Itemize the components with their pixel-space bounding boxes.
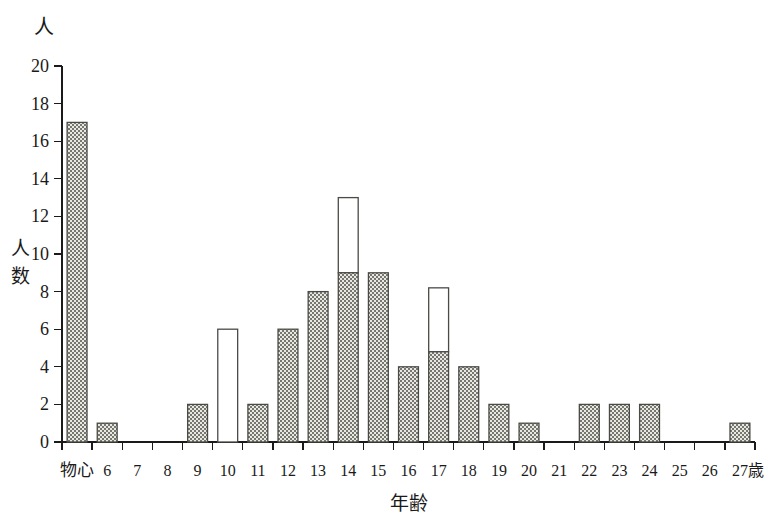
bar-segment-filled [459, 367, 479, 442]
y-tick-label: 4 [40, 357, 49, 377]
x-tick-label: 8 [163, 462, 171, 479]
y-unit-label: 人 [34, 16, 54, 38]
y-tick-label: 6 [40, 319, 49, 339]
x-tick-label: 18 [461, 462, 477, 479]
y-tick-label: 18 [31, 94, 49, 114]
y-tick-label: 8 [40, 282, 49, 302]
bar-segment-open [338, 198, 358, 273]
x-tick-label: 19 [491, 462, 507, 479]
x-tick-label: 23 [611, 462, 627, 479]
y-tick-label: 12 [31, 206, 49, 226]
x-tick-label: 25 [672, 462, 688, 479]
bars-container [67, 122, 750, 442]
y-unit-label-text: 人 [34, 16, 54, 38]
x-axis-title-text: 年齢 [390, 493, 428, 514]
x-tick-label: 21 [551, 462, 567, 479]
bar-segment-filled [97, 423, 117, 442]
bar-segment-open [218, 329, 238, 442]
histogram-chart: 人 02468101214161820 物心678910111213141516… [0, 0, 764, 519]
bar-segment-filled [368, 273, 388, 442]
bar-segment-filled [429, 352, 449, 442]
x-tick-label: 15 [370, 462, 386, 479]
x-tick-label: 7 [133, 462, 141, 479]
x-axis-title: 年齢 [390, 493, 428, 514]
y-tick-label: 0 [40, 432, 49, 452]
bar-segment-open [429, 288, 449, 352]
bar-segment-filled [609, 404, 629, 442]
x-tick-label: 16 [401, 462, 417, 479]
x-tick-label: 12 [280, 462, 296, 479]
x-tick-label: 9 [194, 462, 202, 479]
bar-segment-filled [399, 367, 419, 442]
x-tick-label: 13 [310, 462, 326, 479]
x-tick-label: 10 [220, 462, 236, 479]
bar-segment-filled [67, 122, 87, 442]
bar-segment-filled [730, 423, 750, 442]
bar-segment-filled [278, 329, 298, 442]
bar-segment-filled [338, 273, 358, 442]
y-axis: 02468101214161820 [31, 56, 62, 452]
y-axis-title-char: 数 [11, 266, 30, 287]
x-tick-label: 22 [581, 462, 597, 479]
bar-segment-filled [579, 404, 599, 442]
bar-segment-filled [489, 404, 509, 442]
bar-segment-filled [640, 404, 660, 442]
x-tick-label: 14 [340, 462, 356, 479]
x-axis: 物心67891011121314151617181920212223242526… [60, 442, 764, 480]
x-tick-label: 物心 [60, 461, 94, 480]
x-tick-label: 26 [702, 462, 718, 479]
bar-segment-filled [519, 423, 539, 442]
x-tick-label: 20 [521, 462, 537, 479]
y-tick-label: 16 [31, 131, 49, 151]
bar-segment-filled [248, 404, 268, 442]
y-axis-title-char: 人 [11, 238, 30, 259]
histogram-svg: 人 02468101214161820 物心678910111213141516… [0, 0, 764, 519]
x-tick-label: 11 [250, 462, 265, 479]
y-tick-label: 2 [40, 394, 49, 414]
x-tick-label: 24 [642, 462, 658, 479]
x-tick-label: 17 [431, 462, 447, 479]
x-tick-label: 27歳 [732, 462, 764, 479]
bar-segment-filled [188, 404, 208, 442]
y-tick-label: 10 [31, 244, 49, 264]
y-tick-label: 14 [31, 169, 49, 189]
x-tick-label: 6 [103, 462, 111, 479]
bar-segment-filled [308, 292, 328, 442]
y-axis-title: 人数 [11, 238, 30, 287]
y-tick-label: 20 [31, 56, 49, 76]
